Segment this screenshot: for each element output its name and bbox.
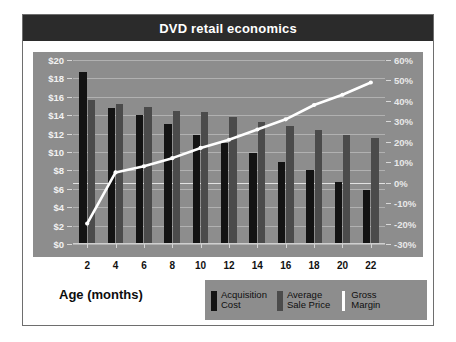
x-axis-tick bbox=[314, 244, 315, 248]
chart-legend: Acquisition Cost Average Sale Price Gros… bbox=[205, 280, 427, 320]
x-axis-tick bbox=[229, 244, 230, 248]
gross-margin-point bbox=[255, 127, 259, 131]
legend-label-average-sale-price: Average Sale Price bbox=[287, 290, 330, 311]
legend-label-line2: Cost bbox=[221, 299, 241, 310]
axis-tick bbox=[67, 226, 72, 227]
gross-margin-point bbox=[170, 156, 174, 160]
x-axis-label: 14 bbox=[252, 260, 263, 271]
right-axis-tick-label: 50% bbox=[394, 75, 413, 86]
gross-margin-point bbox=[227, 138, 231, 142]
right-axis-tick-label: -20% bbox=[394, 218, 416, 229]
gross-margin-point bbox=[369, 80, 373, 84]
x-axis-tick bbox=[257, 244, 258, 248]
x-axis-label: 4 bbox=[113, 260, 119, 271]
right-axis-tick-label: 40% bbox=[394, 95, 413, 106]
legend-swatch-icon-margin bbox=[342, 291, 345, 311]
left-axis-tick-label: $12 bbox=[48, 128, 64, 139]
x-axis-title: Age (months) bbox=[59, 287, 143, 302]
axis-tick bbox=[386, 101, 391, 102]
right-axis-tick-label: 30% bbox=[394, 116, 413, 127]
plot-area: $0$2$4$6$8$10$12$14$16$18$20 -30%-20%-10… bbox=[73, 60, 385, 244]
gross-margin-point bbox=[312, 103, 316, 107]
axis-tick bbox=[67, 78, 72, 79]
chart-figure: DVD retail economics $0$2$4$6$8$10$12$14… bbox=[22, 14, 434, 326]
legend-label-line1: Average bbox=[287, 289, 322, 300]
axis-tick bbox=[386, 203, 391, 204]
legend-swatch-icon-cost bbox=[211, 291, 217, 311]
legend-swatch-icon-price bbox=[277, 291, 283, 311]
left-axis-tick-label: $14 bbox=[48, 110, 64, 121]
axis-tick bbox=[67, 207, 72, 208]
x-axis-labels: 246810121416182022 bbox=[73, 260, 385, 276]
axis-tick bbox=[386, 60, 391, 61]
page-title: DVD retail economics bbox=[159, 21, 297, 36]
x-axis-label: 22 bbox=[365, 260, 376, 271]
right-axis-tick-label: 10% bbox=[394, 157, 413, 168]
x-axis-tick bbox=[144, 244, 145, 248]
right-axis-tick-label: -10% bbox=[394, 198, 416, 209]
legend-label-line2: Sale Price bbox=[287, 299, 330, 310]
axis-tick bbox=[67, 189, 72, 190]
x-axis-label: 2 bbox=[84, 260, 90, 271]
x-axis-label: 10 bbox=[195, 260, 206, 271]
right-axis-tick-label: 20% bbox=[394, 136, 413, 147]
axis-tick bbox=[386, 80, 391, 81]
x-axis-label: 16 bbox=[280, 260, 291, 271]
legend-label-line2: Margin bbox=[351, 299, 380, 310]
axis-tick bbox=[386, 142, 391, 143]
x-axis-label: 20 bbox=[337, 260, 348, 271]
x-axis-tick bbox=[87, 244, 88, 248]
gross-margin-point bbox=[85, 221, 89, 225]
x-axis-tick bbox=[116, 244, 117, 248]
gross-margin-point bbox=[113, 170, 117, 174]
axis-tick bbox=[386, 121, 391, 122]
axis-tick bbox=[67, 60, 72, 61]
x-axis-tick bbox=[286, 244, 287, 248]
axis-tick bbox=[67, 170, 72, 171]
axis-tick bbox=[67, 134, 72, 135]
right-axis-tick-label: 0% bbox=[394, 177, 408, 188]
x-axis-label: 8 bbox=[169, 260, 175, 271]
gross-margin-point bbox=[142, 164, 146, 168]
right-axis-tick-label: 60% bbox=[394, 55, 413, 66]
chart-title-bar: DVD retail economics bbox=[23, 15, 433, 41]
axis-tick bbox=[67, 244, 72, 245]
left-axis-tick-label: $2 bbox=[53, 220, 64, 231]
x-axis-label: 18 bbox=[309, 260, 320, 271]
x-axis-tick bbox=[342, 244, 343, 248]
gross-margin-point bbox=[284, 117, 288, 121]
gross-margin-polyline bbox=[87, 82, 371, 223]
axis-tick bbox=[386, 244, 391, 245]
right-axis-tick-label: -30% bbox=[394, 239, 416, 250]
legend-item-gross-margin: Gross Margin bbox=[340, 290, 380, 311]
axis-tick bbox=[67, 152, 72, 153]
axis-tick bbox=[67, 115, 72, 116]
plot-panel: $0$2$4$6$8$10$12$14$16$18$20 -30%-20%-10… bbox=[33, 52, 423, 257]
axis-baseline bbox=[73, 243, 385, 244]
left-axis-tick-label: $8 bbox=[53, 165, 64, 176]
axis-tick bbox=[67, 97, 72, 98]
x-axis-tick bbox=[201, 244, 202, 248]
legend-item-average-sale-price: Average Sale Price bbox=[277, 290, 330, 311]
legend-item-acquisition-cost: Acquisition Cost bbox=[211, 290, 267, 311]
x-axis-tick bbox=[371, 244, 372, 248]
left-axis-tick-label: $20 bbox=[48, 55, 64, 66]
left-axis-tick-label: $16 bbox=[48, 91, 64, 102]
legend-label-line1: Gross bbox=[351, 289, 376, 300]
left-axis-tick-label: $10 bbox=[48, 147, 64, 158]
legend-label-line1: Acquisition bbox=[221, 289, 267, 300]
axis-tick bbox=[386, 162, 391, 163]
left-axis-tick-label: $0 bbox=[53, 239, 64, 250]
gross-margin-point bbox=[199, 146, 203, 150]
left-axis-tick-label: $4 bbox=[53, 202, 64, 213]
axis-tick bbox=[386, 224, 391, 225]
x-axis-label: 6 bbox=[141, 260, 147, 271]
left-axis-tick-label: $18 bbox=[48, 73, 64, 84]
gross-margin-line bbox=[73, 60, 385, 244]
x-axis-label: 12 bbox=[223, 260, 234, 271]
legend-label-acquisition-cost: Acquisition Cost bbox=[221, 290, 267, 311]
gross-margin-point bbox=[340, 93, 344, 97]
axis-tick bbox=[386, 183, 391, 184]
x-axis-tick bbox=[172, 244, 173, 248]
legend-label-gross-margin: Gross Margin bbox=[351, 290, 380, 311]
